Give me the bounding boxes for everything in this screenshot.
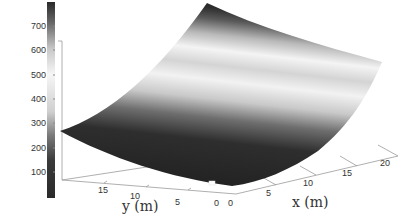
x-tick-label: 0: [228, 198, 233, 208]
x-axis-label: x (m): [292, 194, 329, 210]
y-axis-label: y (m): [121, 198, 159, 214]
colorbar-tick-label: 700: [31, 21, 46, 31]
x-tick-label: 20: [380, 158, 390, 168]
y-tick-label: 15: [98, 185, 108, 195]
colorbar-gradient: [47, 2, 55, 198]
x-tick-label: 5: [266, 188, 271, 198]
colorbar-tick-label: 200: [31, 143, 46, 153]
colorbar-tick-label: 400: [31, 94, 46, 104]
colorbar-tick-label: 600: [31, 45, 46, 55]
surface-plot: 700 600 500 400 300 200 100 15 10 5 0 0 …: [0, 0, 406, 216]
y-tick-label: 0: [214, 198, 219, 208]
colorbar-tick-label: 100: [31, 167, 46, 177]
surface: [60, 3, 382, 186]
colorbar-tick-label: 500: [31, 70, 46, 80]
colorbar-tick-label: 300: [31, 118, 46, 128]
x-tick-label: 15: [342, 168, 352, 178]
x-tick-label: 10: [303, 178, 313, 188]
y-tick-label: 5: [175, 197, 180, 207]
source-marker: [209, 181, 215, 185]
colorbar: 700 600 500 400 300 200 100: [31, 2, 55, 198]
